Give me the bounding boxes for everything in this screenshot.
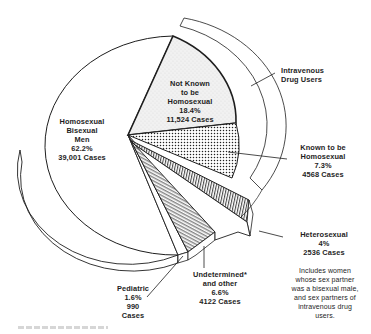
note-line: users. (286, 311, 364, 320)
label-not-known-homosexual: Not Known to be Homosexual 18.4% 11,524 … (159, 79, 221, 124)
note-line: whose sex partner (286, 275, 364, 284)
note-line: and sex partners of (286, 293, 364, 302)
label-line: Heterosexual (292, 230, 356, 239)
label-cases: 4568 Cases (290, 170, 356, 179)
label-line: Bisexual (44, 126, 120, 135)
note-heterosexual: Includes women whose sex partner was a b… (286, 266, 364, 320)
label-line: Homosexual (159, 97, 221, 106)
label-line: Not Known (159, 79, 221, 88)
label-line: Cases (113, 311, 153, 320)
label-line: Known to be (290, 143, 356, 152)
label-cases: 2536 Cases (292, 248, 356, 257)
label-homosexual-bisexual-men: Homosexual Bisexual Men 62.2% 39,001 Cas… (44, 117, 120, 162)
label-percent: 62.2% (44, 144, 120, 153)
label-percent: 6.6% (188, 288, 252, 297)
label-intravenous-drug-users: Intravenous Drug Users (281, 66, 351, 84)
label-cases: 39,001 Cases (44, 153, 120, 162)
label-line: to be (159, 88, 221, 97)
label-line: Men (44, 135, 120, 144)
label-percent: 7.3% (290, 161, 356, 170)
label-percent: 4% (292, 239, 356, 248)
label-line: Intravenous (281, 66, 351, 75)
label-cases: 11,524 Cases (159, 115, 221, 124)
label-line: Drug Users (281, 75, 351, 84)
label-percent: 18.4% (159, 106, 221, 115)
label-cases: 4122 Cases (188, 297, 252, 306)
label-pediatric: Pediatric 1.6% 990 Cases (113, 284, 153, 320)
note-line: intravenous drug (286, 302, 364, 311)
note-line: was a bisexual male, (286, 284, 364, 293)
label-line: Pediatric (113, 284, 153, 293)
label-line: Homosexual (290, 152, 356, 161)
label-line: Undetermined* (188, 270, 252, 279)
label-heterosexual: Heterosexual 4% 2536 Cases (292, 230, 356, 257)
label-line: Homosexual (44, 117, 120, 126)
figure-caption-fragment (18, 326, 108, 329)
note-line: Includes women (286, 266, 364, 275)
label-cases: 990 (113, 302, 153, 311)
label-percent: 1.6% (113, 293, 153, 302)
label-undetermined: Undetermined* and other 6.6% 4122 Cases (188, 270, 252, 306)
label-known-homosexual: Known to be Homosexual 7.3% 4568 Cases (290, 143, 356, 179)
label-line: and other (188, 279, 252, 288)
